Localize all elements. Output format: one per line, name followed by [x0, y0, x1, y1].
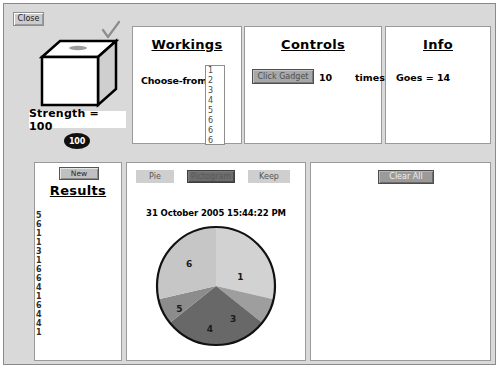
results-panel: Results 56113166416441 — [34, 162, 122, 361]
pictogram-button[interactable]: Pictogram — [187, 170, 235, 183]
results-list[interactable]: 56113166416441 — [35, 211, 54, 337]
choose-from-option[interactable]: 4 — [208, 96, 224, 106]
pie-slice-label: 5 — [176, 304, 182, 314]
times-value-field[interactable]: 10 — [319, 72, 332, 83]
choose-from-listbox[interactable]: 12345666 — [205, 65, 225, 145]
choose-from-option[interactable]: 6 — [208, 126, 224, 136]
pie-chart-svg — [155, 225, 277, 347]
controls-title: Controls — [245, 37, 381, 52]
output-panel — [310, 162, 491, 361]
pie-slice-label: 6 — [186, 259, 192, 269]
choose-from-option[interactable]: 6 — [208, 136, 224, 145]
result-item: 1 — [36, 292, 54, 301]
keep-button[interactable]: Keep — [248, 170, 290, 183]
new-button[interactable]: New — [59, 167, 99, 180]
click-gadget-button[interactable]: Click Gadget — [252, 69, 314, 84]
choose-from-option[interactable]: 5 — [208, 106, 224, 116]
workings-panel: Workings Choose-from 12345666 — [132, 26, 242, 144]
result-item: 6 — [36, 301, 54, 310]
pie-button[interactable]: Pie — [136, 170, 174, 183]
result-item: 4 — [36, 310, 54, 319]
pie-slice-label: 4 — [207, 324, 213, 334]
info-panel: Info Goes = 14 — [385, 26, 491, 144]
chart-timestamp: 31 October 2005 15:44:22 PM — [127, 208, 305, 218]
controls-panel: Controls Click Gadget 10 times — [244, 26, 382, 144]
strength-badge: 100 — [64, 133, 90, 149]
pie-slice-label: 3 — [230, 314, 236, 324]
clear-all-button[interactable]: Clear All — [378, 170, 434, 184]
result-item: 1 — [36, 328, 54, 337]
results-title: Results — [35, 183, 121, 198]
choose-from-option[interactable]: 2 — [208, 76, 224, 86]
application-window: Close Strength = 100 100 Workings Choose… — [3, 3, 496, 365]
result-item: 6 — [36, 265, 54, 274]
result-item: 5 — [36, 211, 54, 220]
result-item: 4 — [36, 319, 54, 328]
workings-title: Workings — [133, 37, 241, 52]
close-button[interactable]: Close — [13, 12, 44, 26]
choose-from-option[interactable]: 3 — [208, 86, 224, 96]
pie-slice-label: 1 — [237, 272, 243, 282]
result-item: 6 — [36, 220, 54, 229]
goes-counter: Goes = 14 — [396, 72, 450, 83]
choose-from-option[interactable]: 1 — [208, 66, 224, 76]
cube-icon[interactable] — [38, 37, 120, 109]
times-label: times — [355, 72, 385, 83]
info-title: Info — [386, 37, 490, 52]
result-item: 6 — [36, 274, 54, 283]
choose-from-label: Choose-from — [141, 75, 207, 86]
choose-from-option[interactable]: 6 — [208, 116, 224, 126]
pie-chart: 13456 — [155, 225, 277, 347]
result-item: 1 — [36, 229, 54, 238]
result-item: 3 — [36, 247, 54, 256]
chart-panel: 31 October 2005 15:44:22 PM 13456 — [126, 162, 306, 361]
result-item: 1 — [36, 256, 54, 265]
strength-readout: Strength = 100 — [29, 111, 126, 128]
result-item: 1 — [36, 238, 54, 247]
result-item: 4 — [36, 283, 54, 292]
